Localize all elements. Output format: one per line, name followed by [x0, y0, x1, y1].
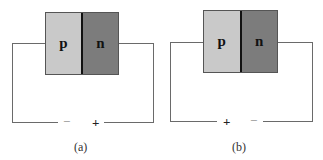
n-label: n — [255, 33, 263, 50]
pn-junction: p n — [203, 10, 278, 73]
wire-right-top — [277, 42, 313, 43]
positive-terminal: + — [223, 115, 230, 128]
wire-left-vertical — [170, 42, 171, 121]
p-label: p — [218, 33, 226, 50]
negative-terminal: − — [250, 114, 257, 127]
wire-bottom-left — [170, 121, 217, 122]
caption: (b) — [232, 140, 246, 155]
wire-left-top — [170, 42, 203, 43]
n-region: n — [240, 11, 278, 72]
diagram-b: p n + − (b) — [0, 0, 161, 160]
p-region: p — [204, 11, 240, 72]
wire-bottom-right — [263, 121, 313, 122]
wire-right-vertical — [312, 42, 313, 122]
